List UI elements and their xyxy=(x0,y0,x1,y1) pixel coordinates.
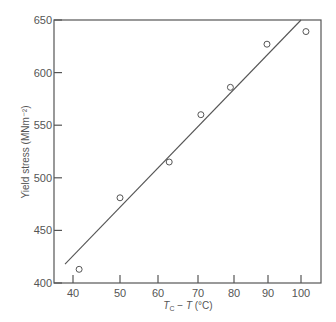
y-tick-label: 500 xyxy=(34,172,52,184)
x-tick-label: 100 xyxy=(292,287,310,299)
y-tick-label: 650 xyxy=(34,14,52,26)
x-tick-label: 60 xyxy=(152,287,164,299)
x-tick-label: 80 xyxy=(228,287,240,299)
plot-frame xyxy=(54,20,321,283)
yield-stress-chart: 400450500550600650 405060708090100 Yield… xyxy=(0,0,336,322)
x-axis-label: TC − T (°C) xyxy=(163,300,212,312)
plot-border xyxy=(54,20,321,283)
x-tick-label: 90 xyxy=(262,287,274,299)
y-axis-ticks: 400450500550600650 xyxy=(34,14,62,289)
data-point-marker xyxy=(227,84,233,90)
y-tick-label: 600 xyxy=(34,67,52,79)
x-tick-label: 40 xyxy=(67,287,79,299)
fit-line-segment xyxy=(65,20,301,264)
x-tick-label: 50 xyxy=(114,287,126,299)
data-point-marker xyxy=(166,159,172,165)
data-point-marker xyxy=(198,112,204,118)
data-point-marker xyxy=(264,41,270,47)
y-tick-label: 450 xyxy=(34,224,52,236)
fit-line xyxy=(65,20,301,264)
y-axis-label: Yield stress (MNm⁻²) xyxy=(20,106,31,199)
y-tick-label: 550 xyxy=(34,119,52,131)
data-point-marker xyxy=(76,266,82,272)
x-tick-label: 70 xyxy=(192,287,204,299)
y-tick-label: 400 xyxy=(34,277,52,289)
data-point-marker xyxy=(117,195,123,201)
data-points xyxy=(76,29,309,273)
data-point-marker xyxy=(303,29,309,35)
x-axis-ticks: 405060708090100 xyxy=(67,275,310,299)
